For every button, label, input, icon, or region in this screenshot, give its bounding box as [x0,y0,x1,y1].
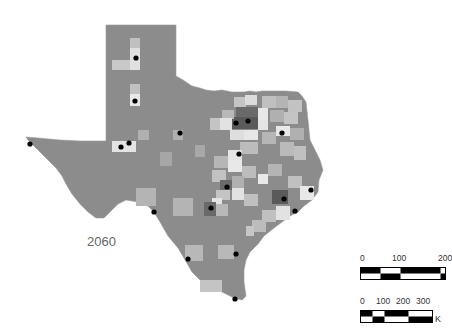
scale-tick: 0 [360,253,365,263]
scale-bar-1-graphic [360,267,446,280]
year-label: 2060 [87,234,116,249]
scale-bar-2-ticks: 0 100 200 300 [360,296,435,308]
scale-tick: 100 [392,253,406,263]
scale-unit: K [435,314,441,324]
texas-county-map [0,0,340,330]
scale-bar-1-ticks: 0 100 200 [360,253,446,265]
scale-bar-1: 0 100 200 [360,253,446,280]
scale-tick: 100 [376,296,390,306]
scale-bar-2-graphic [360,310,435,323]
scale-tick: 300 [416,296,430,306]
scale-tick: 0 [360,296,365,306]
scale-bar-2: 0 100 200 300 K [360,296,435,323]
scale-tick: 200 [396,296,410,306]
scale-tick: 200 [438,253,452,263]
